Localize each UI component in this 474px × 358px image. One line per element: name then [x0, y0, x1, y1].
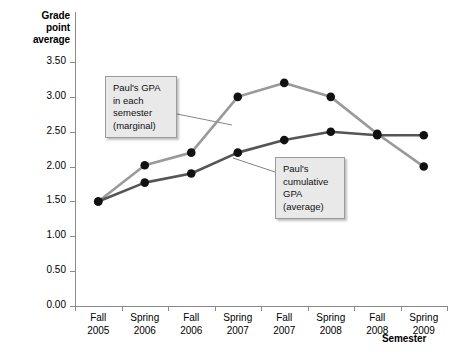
- callout-marginal-line-2: in each: [113, 95, 170, 108]
- data-point-marker: [233, 93, 242, 102]
- callout-cumulative-line-1: Paul's: [283, 163, 338, 176]
- data-point-marker: [187, 148, 196, 157]
- gpa-line-chart: Grade point average 0.000.501.001.502.00…: [0, 0, 474, 358]
- callout-marginal-line-4: (marginal): [113, 120, 170, 133]
- callout-cumulative-line-2: cumulative: [283, 176, 338, 189]
- leader-line-cumulative: [233, 158, 275, 172]
- data-point-marker: [373, 131, 382, 140]
- callout-marginal-gpa: Paul's GPA in each semester (marginal): [105, 76, 177, 138]
- callout-cumulative-line-3: GPA: [283, 188, 338, 201]
- data-point-marker: [326, 93, 335, 102]
- data-point-marker: [140, 178, 149, 187]
- callout-marginal-line-3: semester: [113, 107, 170, 120]
- data-point-marker: [94, 197, 103, 206]
- callout-cumulative-gpa: Paul's cumulative GPA (average): [275, 157, 345, 219]
- data-point-marker: [419, 162, 428, 171]
- callout-cumulative-line-4: (average): [283, 201, 338, 214]
- data-point-marker: [140, 161, 149, 170]
- plot-area: [0, 0, 474, 358]
- data-point-marker: [326, 127, 335, 136]
- data-point-marker: [419, 131, 428, 140]
- data-point-marker: [187, 169, 196, 178]
- x-axis-title: Semester: [382, 333, 426, 344]
- data-point-marker: [280, 79, 289, 88]
- data-point-marker: [280, 136, 289, 145]
- callout-marginal-line-1: Paul's GPA: [113, 82, 170, 95]
- data-point-marker: [233, 148, 242, 157]
- callout-leader-lines: [177, 114, 275, 172]
